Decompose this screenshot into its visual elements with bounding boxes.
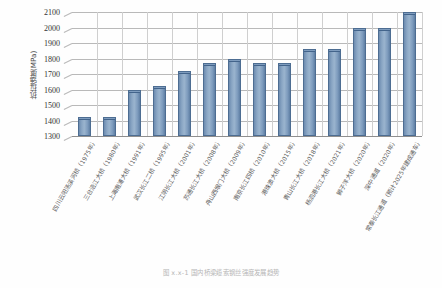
gridline <box>72 136 422 137</box>
axis-skew-tick <box>64 59 73 64</box>
y-axis-tick: 1600 <box>44 85 60 94</box>
bar-slot <box>128 12 141 136</box>
axis-skew-tick <box>64 43 73 48</box>
x-axis-tick: 四川云阳汤溪河桥（1975年） <box>51 138 98 212</box>
bar[interactable] <box>278 63 291 136</box>
bar-slot <box>303 12 316 136</box>
y-axis-tick: 1300 <box>44 132 60 141</box>
axis-skew-tick <box>64 28 73 33</box>
bar-slot <box>153 12 166 136</box>
bar[interactable] <box>228 59 241 137</box>
bar-slot <box>353 12 366 136</box>
y-axis-tick: 2000 <box>44 23 60 32</box>
y-axis-tick: 1900 <box>44 39 60 48</box>
axis-skew-tick <box>64 121 73 126</box>
y-axis-tick: 1500 <box>44 101 60 110</box>
y-axis-tick: 1700 <box>44 70 60 79</box>
chart-area: 抗拉强度(MPa) 210020001900180017001600150014… <box>0 0 442 253</box>
bar[interactable] <box>78 117 91 136</box>
axis-skew-tick <box>64 90 73 95</box>
category-separator <box>422 12 423 136</box>
axis-skew-tick <box>64 136 73 141</box>
axis-skew-tick <box>64 12 73 17</box>
bar[interactable] <box>103 117 116 136</box>
y-axis-title: 抗拉强度(MPa) <box>26 34 42 116</box>
bar-slot <box>228 12 241 136</box>
bar-slot <box>278 12 291 136</box>
bar[interactable] <box>178 71 191 136</box>
figure-caption: 图 x.x-1 国内桥梁缆索钢丝强度发展趋势 <box>0 268 442 277</box>
bar-slot <box>328 12 341 136</box>
bar[interactable] <box>328 49 341 136</box>
axis-skew-tick <box>64 74 73 79</box>
bar-slot <box>378 12 391 136</box>
bar-slot <box>253 12 266 136</box>
y-axis-tick: 1400 <box>44 116 60 125</box>
bar-slot <box>103 12 116 136</box>
bar-slot <box>403 12 416 136</box>
bar-slot <box>78 12 91 136</box>
x-axis-tick-labels: 四川云阳汤溪河桥（1975年）三台涪江大桥（1980年）上海南浦大桥（1991年… <box>72 138 422 250</box>
bar-slot <box>203 12 216 136</box>
bar[interactable] <box>128 90 141 137</box>
figure-container: 抗拉强度(MPa) 210020001900180017001600150014… <box>0 0 442 288</box>
bar[interactable] <box>403 12 416 136</box>
y-axis-tick: 2100 <box>44 8 60 17</box>
bar[interactable] <box>378 28 391 137</box>
bar-slot <box>178 12 191 136</box>
bar[interactable] <box>353 28 366 137</box>
plot-area: 210020001900180017001600150014001300 <box>72 12 422 136</box>
bar-series <box>72 12 422 136</box>
bar[interactable] <box>303 49 316 136</box>
axis-skew-tick <box>64 105 73 110</box>
bar[interactable] <box>203 63 216 136</box>
bar[interactable] <box>153 86 166 136</box>
y-axis-tick: 1800 <box>44 54 60 63</box>
bar[interactable] <box>253 63 266 136</box>
